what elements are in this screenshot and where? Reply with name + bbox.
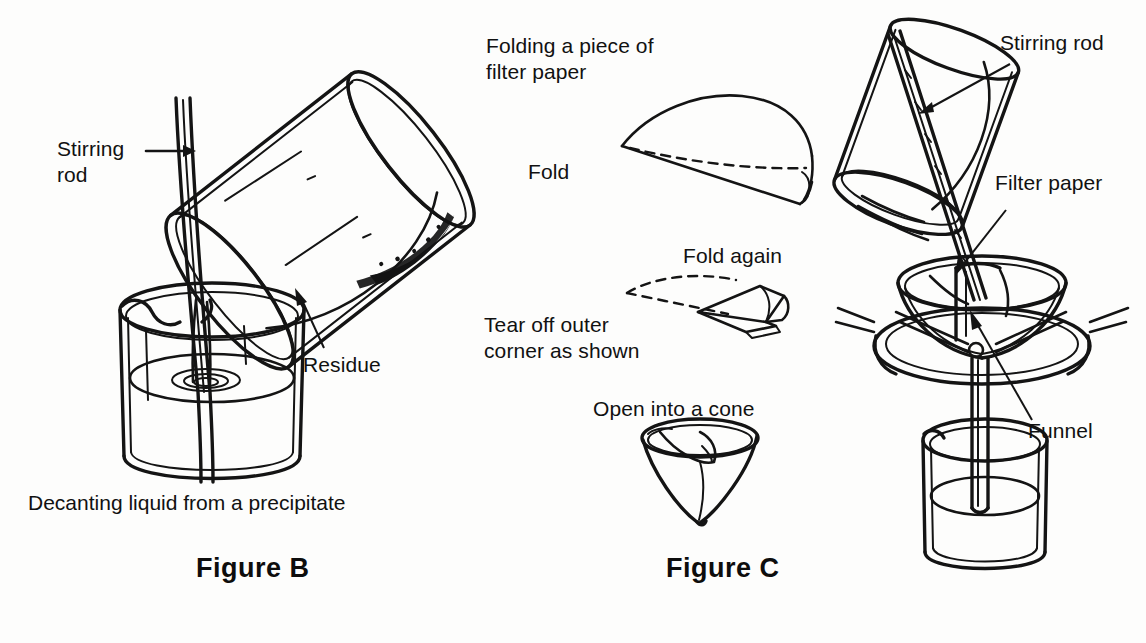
label-funnel: Funnel	[1028, 418, 1093, 444]
figure-b-artwork	[120, 56, 492, 482]
label-open-cone: Open into a cone	[593, 396, 755, 422]
label-fold-again: Fold again	[683, 243, 782, 269]
label-filter-paper: Filter paper	[995, 170, 1102, 196]
label-fold: Fold	[528, 159, 569, 185]
pour-spout-c	[858, 196, 928, 240]
tilted-beaker	[147, 56, 492, 385]
label-stirring-rod-c: Stirring rod	[1000, 30, 1104, 56]
shape-quarter-wedge	[627, 276, 788, 338]
funnel-arrow	[970, 310, 1032, 420]
receiving-beaker-b	[120, 283, 304, 479]
shape-folded-semicircle	[622, 95, 813, 204]
label-folding-filter-paper: Folding a piece of filter paper	[486, 33, 654, 85]
diagram-page: Stirring rod Residue Decanting liquid fr…	[0, 0, 1146, 643]
figure-b-label: Figure B	[196, 553, 310, 584]
figure-c-apparatus	[827, 7, 1128, 568]
label-tear-corner: Tear off outer corner as shown	[484, 312, 640, 364]
filter-paper-arrow	[955, 210, 1006, 276]
figure-c-label: Figure C	[666, 553, 780, 584]
tilted-beaker-c	[827, 7, 1025, 247]
stirring-rod-c	[888, 31, 986, 300]
label-residue: Residue	[303, 352, 381, 378]
residue-arrow	[295, 288, 324, 348]
shape-paper-cone	[642, 419, 758, 525]
caption-figure-b: Decanting liquid from a precipitate	[28, 491, 346, 515]
liquid-stream	[193, 300, 211, 384]
stirring-rod-arrow-c	[918, 64, 1010, 114]
fold-sequence-artwork	[622, 95, 813, 524]
funnel	[898, 256, 1066, 513]
support-ring	[836, 308, 1128, 384]
stirring-rod-b	[176, 98, 213, 482]
stirring-rod-arrow-b	[146, 145, 196, 157]
label-stirring-rod-b: Stirring rod	[57, 136, 124, 188]
